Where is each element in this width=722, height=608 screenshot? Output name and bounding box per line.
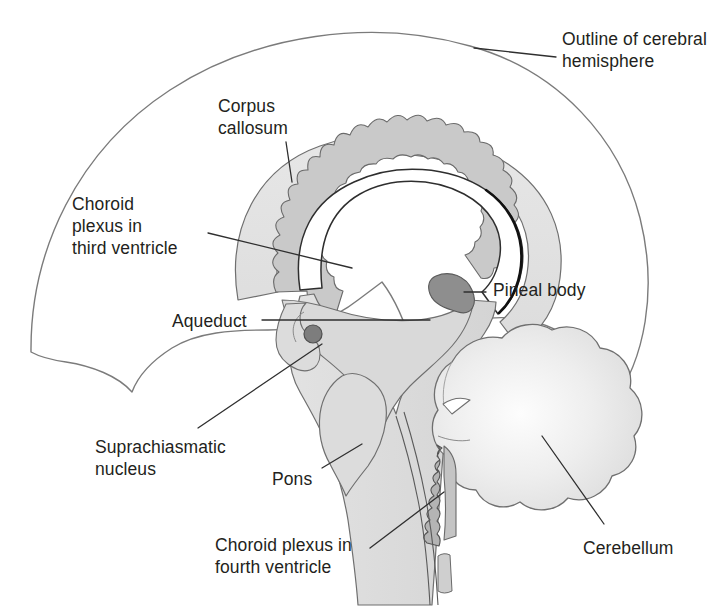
diagram-canvas xyxy=(0,0,722,608)
aqueduct-marker xyxy=(304,325,322,343)
label-aqueduct: Aqueduct xyxy=(172,310,247,332)
label-corpus-callosum: Corpus callosum xyxy=(218,95,288,139)
leader-cerebral-outline xyxy=(474,48,556,57)
label-suprachiasmatic-nucleus: Suprachiasmatic nucleus xyxy=(95,436,226,480)
cerebellum xyxy=(432,324,641,509)
label-choroid-plexus-third-ventricle: Choroid plexus in third ventricle xyxy=(72,193,178,259)
label-choroid-plexus-fourth-ventricle: Choroid plexus in fourth ventricle xyxy=(215,534,352,578)
brain-sagittal-diagram: Outline of cerebral hemisphere Corpus ca… xyxy=(0,0,722,608)
label-pineal-body: Pineal body xyxy=(493,279,586,301)
pineal-body xyxy=(429,274,475,313)
label-cerebellum: Cerebellum xyxy=(583,537,673,559)
label-pons: Pons xyxy=(272,468,312,490)
label-cerebral-outline: Outline of cerebral hemisphere xyxy=(562,28,707,72)
